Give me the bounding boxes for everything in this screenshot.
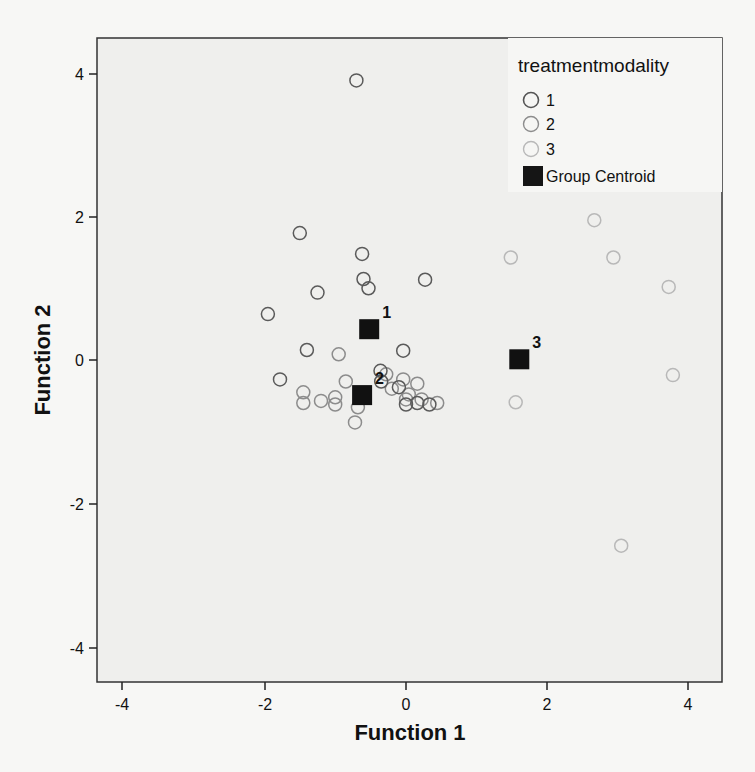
y-tick-label: -4 — [70, 640, 84, 657]
x-tick-label: 2 — [543, 696, 552, 713]
legend-label-2: 2 — [546, 116, 555, 133]
y-tick-label: 0 — [75, 352, 84, 369]
x-tick-label: 4 — [684, 696, 693, 713]
x-tick-label: -4 — [115, 696, 129, 713]
y-tick-label: -2 — [70, 496, 84, 513]
y-axis-title: Function 2 — [30, 304, 55, 415]
centroid-label-2: 2 — [375, 370, 384, 387]
x-tick-label: 0 — [402, 696, 411, 713]
y-axis: 4 2 0 -2 -4 — [70, 66, 97, 657]
legend-marker-centroid-icon — [523, 166, 543, 186]
scatter-chart: 4 2 0 -2 -4 -4 -2 0 2 4 Function 1 Funct… — [0, 0, 755, 772]
group-centroid-3 — [509, 349, 529, 369]
legend-label-1: 1 — [546, 92, 555, 109]
group-centroid-2 — [352, 385, 372, 405]
legend-label-centroid: Group Centroid — [546, 168, 655, 185]
legend: treatmentmodality 1 2 3 Group Centroid — [508, 38, 722, 192]
y-tick-label: 4 — [75, 66, 84, 83]
legend-title: treatmentmodality — [518, 55, 670, 76]
y-tick-label: 2 — [75, 209, 84, 226]
centroid-label-1: 1 — [382, 304, 391, 321]
group-centroid-1 — [359, 319, 379, 339]
x-axis-title: Function 1 — [354, 720, 465, 745]
centroid-label-3: 3 — [532, 334, 541, 351]
x-axis: -4 -2 0 2 4 — [115, 682, 693, 713]
x-tick-label: -2 — [258, 696, 272, 713]
legend-label-3: 3 — [546, 141, 555, 158]
